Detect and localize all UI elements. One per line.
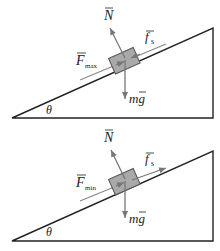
normal-force-arrow — [110, 28, 125, 58]
incline-diagrams: N f s F max mg θ N f s F min mg θ — [0, 0, 220, 251]
diagram-bottom: N f s F min mg θ — [12, 130, 213, 241]
normal-label: N — [103, 130, 114, 145]
applied-force-label: F — [75, 53, 85, 68]
block — [109, 47, 141, 74]
applied-force-sub: min — [85, 184, 96, 192]
normal-label: N — [103, 8, 114, 23]
incline-triangle — [12, 151, 213, 241]
friction-sub: s — [151, 37, 154, 46]
friction-sub: s — [151, 159, 154, 168]
diagram-top: N f s F max mg θ — [12, 8, 213, 118]
applied-force-label: F — [75, 175, 85, 190]
weight-label: mg — [129, 91, 145, 106]
applied-force-sub: max — [85, 62, 98, 70]
block — [109, 168, 141, 195]
angle-label: θ — [46, 225, 52, 239]
incline-triangle — [12, 28, 213, 118]
angle-label: θ — [46, 103, 52, 117]
normal-force-arrow — [111, 150, 125, 179]
weight-label: mg — [129, 211, 145, 226]
